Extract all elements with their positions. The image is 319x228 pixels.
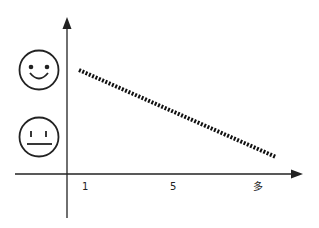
x-axis [15, 170, 303, 179]
diagram-canvas [0, 0, 319, 228]
dotted-trend-line [79, 70, 276, 157]
x-tick-many: 多 [253, 182, 263, 192]
y-axis [63, 17, 72, 218]
x-tick-1: 1 [82, 182, 88, 192]
x-tick-5: 5 [170, 182, 176, 192]
smiling-face-icon [20, 51, 59, 90]
neutral-face-icon [20, 118, 59, 157]
